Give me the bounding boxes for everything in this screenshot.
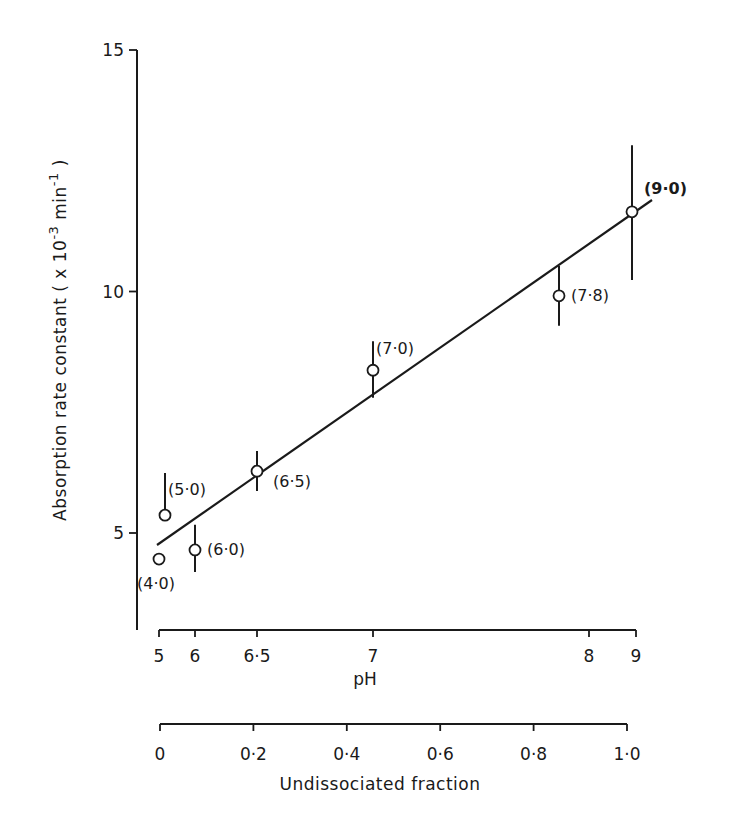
point-marker [627,206,638,217]
point-label: (6·5) [273,472,311,491]
y-tick-label: 15 [102,40,124,60]
fraction-tick-label: 0·8 [520,744,547,764]
data-points: (4·0)(5·0)(6·0)(6·5)(7·0)(7·8)(9·0) [137,145,687,593]
point-label: (6·0) [207,540,245,559]
point-label: (9·0) [644,179,687,198]
point-marker [190,544,201,555]
ph-tick-label: 8 [584,646,595,666]
fit-line [157,200,652,545]
data-point: (9·0) [627,145,687,280]
fraction-tick-label: 1·0 [613,744,640,764]
x-axis-fraction: 00·20·40·60·81·0 Undissociated fraction [155,724,641,794]
data-point: (7·8) [554,266,609,326]
point-marker [252,466,263,477]
y-tick-label: 10 [102,282,124,302]
fraction-tick-label: 0·4 [333,744,360,764]
point-label: (5·0) [168,480,206,499]
data-point: (4·0) [137,554,175,594]
fraction-tick-label: 0 [155,744,166,764]
ph-tick-label: 6·5 [243,646,270,666]
data-point: (7·0) [368,339,414,398]
fraction-tick-label: 0·2 [240,744,267,764]
x-axis-ph: 566·5789 pH [154,630,642,689]
point-label: (4·0) [137,574,175,593]
data-point: (6·5) [252,451,311,491]
data-point: (5·0) [160,473,206,521]
y-tick-label: 5 [113,523,124,543]
y-ticks: 51015 [102,40,137,543]
point-marker [160,510,171,521]
fraction-tick-label: 0·6 [427,744,454,764]
x-axis-label-ph: pH [353,669,377,689]
ph-tick-label: 6 [190,646,201,666]
y-axis-label: Absorption rate constant ( x 10-3 min-1 … [46,159,70,521]
ph-tick-label: 9 [631,646,642,666]
point-marker [554,290,565,301]
y-axis: 51015 Absorption rate constant ( x 10-3 … [46,40,137,630]
ph-tick-label: 5 [154,646,165,666]
ph-tick-label: 7 [368,646,379,666]
x-axis-label-fraction: Undissociated fraction [280,774,481,794]
data-point: (6·0) [190,525,245,572]
point-marker [154,554,165,565]
point-label: (7·0) [376,339,414,358]
scatter-chart: 51015 Absorption rate constant ( x 10-3 … [0,0,729,820]
point-marker [368,365,379,376]
point-label: (7·8) [571,286,609,305]
